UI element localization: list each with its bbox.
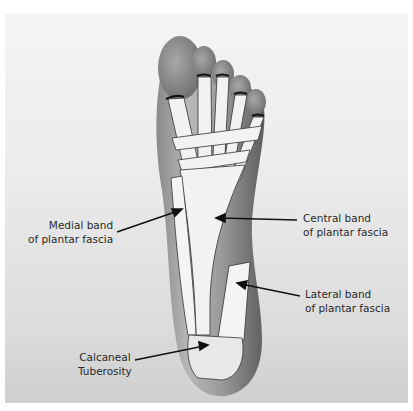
label-line: Medial band xyxy=(28,218,113,232)
label-central-band: Central band of plantar fascia xyxy=(303,211,388,239)
label-line: of plantar fascia xyxy=(303,225,388,239)
label-line: of plantar fascia xyxy=(28,232,113,246)
label-calcaneal-tuberosity: Calcaneal Tuberosity xyxy=(78,350,132,378)
calcaneal-tuberosity-shape xyxy=(188,335,243,380)
label-line: Central band xyxy=(303,211,388,225)
label-medial-band: Medial band of plantar fascia xyxy=(28,218,113,246)
label-line: of plantar fascia xyxy=(305,301,390,315)
label-line: Lateral band xyxy=(305,287,390,301)
label-line: Tuberosity xyxy=(78,364,132,378)
foot-illustration xyxy=(0,0,413,411)
toe-5 xyxy=(246,89,266,115)
label-line: Calcaneal xyxy=(78,350,132,364)
label-lateral-band: Lateral band of plantar fascia xyxy=(305,287,390,315)
